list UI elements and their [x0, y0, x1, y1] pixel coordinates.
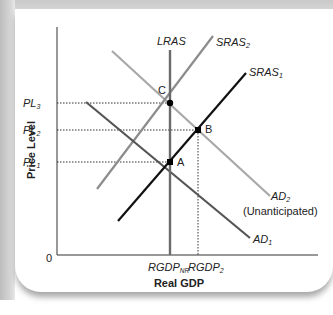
point-b-marker [195, 127, 201, 133]
pl3-label: PL3 [23, 97, 40, 110]
x-axis-label: Real GDP [154, 277, 204, 289]
y-axis-label: Price Level [25, 121, 37, 179]
rgdp-nr-label: RGDPNR [148, 261, 189, 274]
lras-label: LRAS [157, 35, 186, 47]
origin-label: 0 [46, 252, 52, 264]
ad1-label: AD1 [252, 233, 272, 246]
point-c-label: C [158, 84, 166, 96]
ad2-curve [112, 51, 270, 196]
point-a-marker [167, 159, 173, 165]
ad-as-diagram: A B C PL3 PL2 PL1 Price Level 0 RGDPNR R… [0, 0, 333, 315]
ad2-label: AD2 [270, 190, 290, 203]
point-c-marker [167, 100, 173, 106]
point-a-label: A [177, 156, 185, 168]
sras1-label: SRAS1 [249, 66, 283, 79]
rgdp2-label: RGDP2 [188, 261, 224, 274]
sras1-curve [118, 73, 246, 221]
point-b-label: B [205, 123, 212, 135]
sras2-curve [97, 36, 213, 189]
ad2-note: (Unanticipated) [243, 205, 318, 217]
sras2-label: SRAS2 [216, 36, 250, 49]
